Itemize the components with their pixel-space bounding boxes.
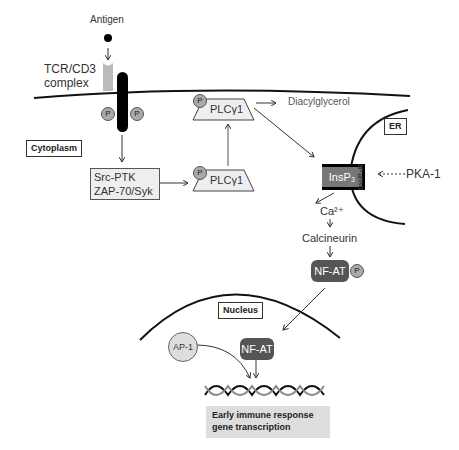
- src-ptk-label: Src-PTK: [94, 170, 156, 184]
- calcium-label: Ca²⁺: [320, 205, 344, 218]
- plc-lower-label: PLCγ1: [210, 174, 243, 186]
- phospho-badge: P: [130, 107, 144, 121]
- phospho-badge: P: [193, 94, 207, 108]
- tcr-block: [103, 63, 113, 91]
- plc-upper-label: PLCγ1: [210, 103, 243, 115]
- diacylglycerol-label: Diacylglycerol: [288, 96, 350, 107]
- nfat-cytoplasm: NF-AT: [311, 260, 349, 282]
- phospho-badge: P: [193, 166, 207, 180]
- gene-transcription-box: Early immune response gene transcription: [206, 406, 330, 438]
- calcineurin-label: Calcineurin: [302, 232, 357, 244]
- antigen-label: Antigen: [90, 14, 124, 25]
- nucleus-label: Nucleus: [218, 302, 263, 319]
- phospho-badge: P: [350, 264, 364, 278]
- gene-label-line1: Early immune response: [212, 409, 324, 421]
- zap70-syk-label: ZAP-70/Syk: [94, 184, 156, 198]
- antigen-dot: [104, 34, 112, 42]
- nfat-nucleus: NF-AT: [240, 338, 274, 360]
- insp3r-label: InsP₃R: [356, 164, 365, 190]
- cytoplasm-label: Cytoplasm: [26, 140, 82, 157]
- dna-helix: [205, 386, 324, 395]
- cell-membrane: [34, 90, 410, 98]
- pka1-label: PKA-1: [406, 167, 441, 181]
- phospho-badge: P: [101, 107, 115, 121]
- tcr-label-line2: complex: [44, 76, 89, 90]
- tcr-label-line1: TCR/CD3: [44, 62, 96, 76]
- receptor-bar: [117, 72, 128, 132]
- ap1-node: AP-1: [168, 332, 198, 362]
- gene-label-line2: gene transcription: [212, 421, 324, 433]
- src-ptk-box: Src-PTK ZAP-70/Syk: [90, 168, 160, 200]
- er-label: ER: [384, 118, 407, 135]
